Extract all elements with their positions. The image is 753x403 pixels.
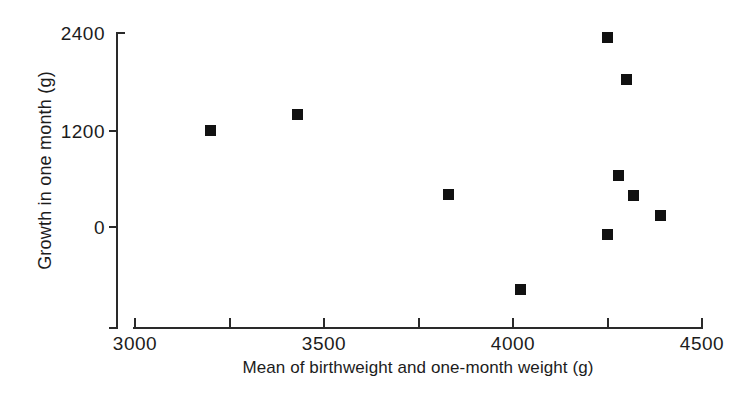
data-point [602,32,613,43]
data-point [205,125,216,136]
data-point [655,210,666,221]
data-point [515,284,526,295]
data-point [602,229,613,240]
data-point [292,109,303,120]
data-point [613,170,624,181]
scatter-chart-figure: 2400 1200 0 Growth in one month (g) 3000… [0,0,753,403]
plot-area [0,0,753,403]
data-point [621,74,632,85]
data-point [443,189,454,200]
data-point [628,190,639,201]
